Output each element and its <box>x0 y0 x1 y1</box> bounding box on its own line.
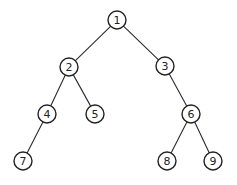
edge-1-2 <box>75 26 110 60</box>
edge-3-6 <box>169 74 186 106</box>
node-label: 9 <box>210 155 217 168</box>
node-label: 3 <box>162 60 169 73</box>
tree-node-9: 9 <box>204 152 222 170</box>
edge-6-8 <box>171 122 187 153</box>
node-label: 8 <box>164 155 171 168</box>
tree-node-1: 1 <box>108 11 126 29</box>
binary-tree-diagram: 123456789 <box>0 0 237 185</box>
node-label: 5 <box>92 108 99 121</box>
node-label: 2 <box>66 61 73 74</box>
edge-4-7 <box>27 122 43 153</box>
tree-node-4: 4 <box>38 105 56 123</box>
node-label: 6 <box>188 108 195 121</box>
tree-node-3: 3 <box>156 57 174 75</box>
edge-2-5 <box>73 75 90 106</box>
tree-node-2: 2 <box>60 58 78 76</box>
tree-node-6: 6 <box>182 105 200 123</box>
edge-2-4 <box>51 75 65 106</box>
edge-6-9 <box>195 122 209 153</box>
tree-node-8: 8 <box>158 152 176 170</box>
edge-1-3 <box>123 26 158 60</box>
nodes: 123456789 <box>14 11 222 170</box>
node-label: 1 <box>114 14 121 27</box>
tree-node-5: 5 <box>86 105 104 123</box>
node-label: 4 <box>44 108 51 121</box>
node-label: 7 <box>20 155 27 168</box>
tree-node-7: 7 <box>14 152 32 170</box>
edges <box>27 26 209 153</box>
